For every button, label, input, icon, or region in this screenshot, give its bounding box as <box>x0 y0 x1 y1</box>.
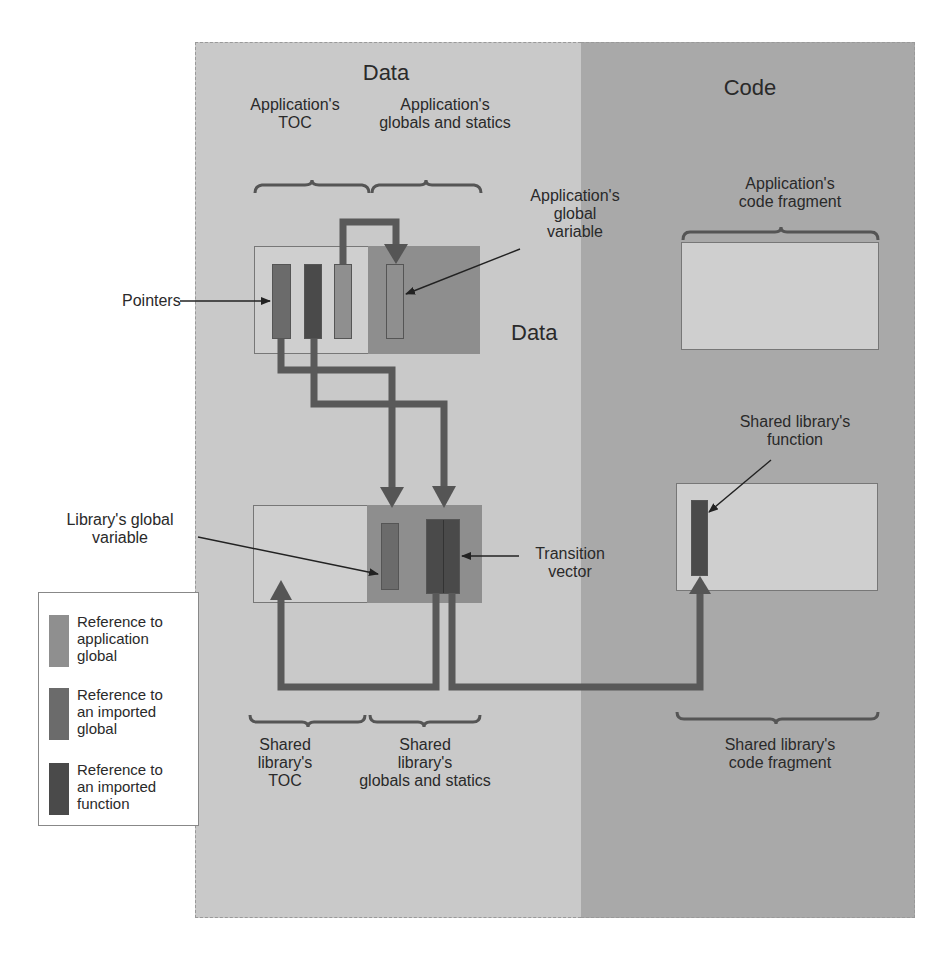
legend-swatch <box>49 763 69 815</box>
arrowhead-down-icon <box>384 244 408 264</box>
legend-text: Reference to application global <box>77 613 163 664</box>
arrowhead-down-icon <box>432 486 456 508</box>
arrowhead-up-icon <box>689 576 711 594</box>
legend-text: Reference to an imported global <box>77 686 163 737</box>
legend-text-line: function <box>77 795 163 812</box>
legend-text-line: Reference to <box>77 613 163 630</box>
legend-text-line: application <box>77 630 163 647</box>
legend-text-line: Reference to <box>77 686 163 703</box>
legend-text-line: global <box>77 720 163 737</box>
arrowhead-down-icon <box>380 487 404 508</box>
legend-item-imported-function: Reference to an imported function <box>49 761 194 817</box>
legend-swatch <box>49 688 69 740</box>
arrowhead-up-icon <box>270 580 292 600</box>
legend-swatch <box>49 615 69 667</box>
legend-text-line: an imported <box>77 778 163 795</box>
legend-item-imported-global: Reference to an imported global <box>49 686 194 742</box>
legend-text-line: an imported <box>77 703 163 720</box>
legend-text: Reference to an imported function <box>77 761 163 812</box>
legend-text-line: Reference to <box>77 761 163 778</box>
legend-text-line: global <box>77 647 163 664</box>
legend-item-app-global: Reference to application global <box>49 613 194 669</box>
legend: Reference to application global Referenc… <box>38 592 199 826</box>
